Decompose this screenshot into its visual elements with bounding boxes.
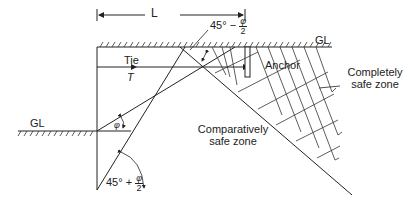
tie-force-label: T	[127, 71, 134, 83]
phi-angle-arc	[121, 117, 124, 128]
bottom-angle-den: 2	[135, 184, 143, 193]
completely-safe-zone-label: Completely safe zone	[344, 66, 406, 90]
completely-safe-line2: safe zone	[344, 78, 406, 90]
active-failure-line	[97, 47, 185, 190]
tie-label: Tie	[124, 54, 139, 66]
bottom-angle-prefix: 45° +	[106, 176, 132, 188]
anchor-label: Anchor	[265, 59, 300, 71]
bottom-angle-fraction: φ 2	[135, 174, 143, 193]
dimension-L-label: L	[151, 7, 158, 19]
ground-hatch-top	[100, 42, 331, 47]
top-angle-den: 2	[239, 27, 247, 36]
diagram-canvas	[0, 0, 409, 201]
gl-left-label: GL	[30, 117, 45, 129]
bottom-angle-label: 45° + φ 2	[106, 174, 143, 193]
completely-safe-leader	[319, 86, 340, 88]
top-angle-fraction: φ 2	[239, 17, 247, 36]
comparatively-safe-line1: Comparatively	[178, 123, 288, 135]
phi-angle-label: φ	[114, 119, 120, 131]
top-angle-prefix: 45° −	[210, 19, 236, 31]
anchor-plate	[245, 47, 250, 77]
top-angle-label: 45° − φ 2	[210, 17, 247, 36]
comparatively-safe-zone-label: Comparatively safe zone	[178, 123, 288, 147]
top-angle-arc	[202, 53, 206, 61]
completely-safe-line1: Completely	[344, 66, 406, 78]
gl-top-label: GL	[315, 34, 330, 46]
comparatively-safe-line2: safe zone	[178, 135, 288, 147]
ground-hatch-left	[18, 131, 93, 136]
